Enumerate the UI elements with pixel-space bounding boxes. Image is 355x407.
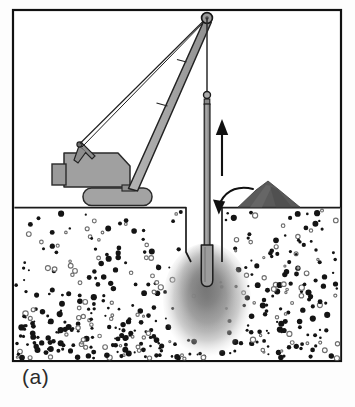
soil-grain-ring <box>76 326 80 330</box>
soil-grain-solid <box>279 307 282 310</box>
soil-grain-solid <box>270 255 273 258</box>
soil-grain-solid <box>114 327 116 329</box>
soil-grain-solid <box>158 342 160 344</box>
soil-grain-solid <box>311 304 315 308</box>
soil-grain-ring <box>175 213 178 216</box>
soil-grain-solid <box>177 247 181 251</box>
soil-grain-ring <box>253 302 256 305</box>
soil-grain-solid <box>55 250 59 254</box>
soil-grain-solid <box>251 343 254 346</box>
soil-grain-solid <box>131 228 137 234</box>
soil-grain-solid <box>267 345 270 348</box>
soil-grain-ring <box>111 314 114 317</box>
soil-grain-solid <box>102 294 105 297</box>
soil-grain-solid <box>262 298 267 303</box>
soil-grain-solid <box>33 341 37 345</box>
soil-grain-solid <box>254 263 259 268</box>
soil-grain-solid <box>287 345 291 349</box>
soil-grain-solid <box>246 329 249 332</box>
soil-grain-ring <box>147 356 151 360</box>
soil-grain-ring <box>119 345 121 347</box>
soil-grain-solid <box>289 282 293 286</box>
soil-grain-solid <box>19 334 23 338</box>
soil-grain-ring <box>77 306 81 310</box>
soil-grain-ring <box>319 341 322 344</box>
soil-grain-solid <box>332 251 335 254</box>
soil-grain-solid <box>174 354 180 360</box>
soil-grain-solid <box>306 333 309 336</box>
soil-grain-solid <box>171 219 175 223</box>
soil-grain-solid <box>314 278 318 282</box>
soil-grain-solid <box>129 334 132 337</box>
soil-grain-solid <box>146 283 150 287</box>
crane-cab-body <box>64 153 130 187</box>
soil-grain-solid <box>244 266 247 269</box>
soil-grain-solid <box>44 350 49 355</box>
soil-grain-solid <box>48 293 51 296</box>
soil-grain-solid <box>118 308 121 311</box>
soil-grain-solid <box>318 299 323 304</box>
soil-grain-ring <box>98 334 102 338</box>
soil-grain-solid <box>92 357 95 360</box>
soil-grain-ring <box>65 231 68 234</box>
soil-grain-solid <box>122 347 128 353</box>
soil-grain-solid <box>14 283 18 287</box>
soil-grain-ring <box>299 293 303 297</box>
soil-grain-solid <box>295 253 298 256</box>
soil-grain-solid <box>336 287 338 289</box>
soil-grain-ring <box>101 231 104 234</box>
soil-grain-ring <box>145 243 149 247</box>
soil-grain-ring <box>335 342 339 346</box>
soil-grain-solid <box>151 334 156 339</box>
soil-grain-ring <box>31 308 35 312</box>
soil-grain-solid <box>119 328 121 330</box>
soil-grain-solid <box>87 275 92 280</box>
soil-grain-solid <box>313 333 317 337</box>
soil-grain-solid <box>108 281 113 286</box>
soil-grain-solid <box>231 215 237 221</box>
soil-grain-solid <box>34 293 39 298</box>
soil-grain-ring <box>281 224 285 228</box>
soil-grain-solid <box>262 339 266 343</box>
soil-grain-solid <box>113 267 118 272</box>
soil-grain-ring <box>286 288 289 291</box>
soil-grain-ring <box>321 209 324 212</box>
soil-grain-solid <box>91 294 97 300</box>
soil-grain-ring <box>281 282 286 287</box>
soil-grain-ring <box>234 238 238 242</box>
soil-grain-solid <box>126 319 131 324</box>
crawler-track <box>83 188 152 206</box>
soil-grain-ring <box>68 263 73 268</box>
soil-grain-solid <box>266 330 268 332</box>
soil-grain-solid <box>119 354 123 358</box>
soil-grain-solid <box>267 353 269 355</box>
soil-grain-solid <box>302 243 306 247</box>
soil-grain-solid <box>249 211 253 215</box>
soil-grain-solid <box>250 273 253 276</box>
soil-grain-solid <box>268 251 272 255</box>
soil-grain-ring <box>284 313 287 316</box>
soil-grain-ring <box>249 240 253 244</box>
soil-grain-solid <box>26 343 29 346</box>
soil-grain-ring <box>136 313 139 316</box>
soil-grain-solid <box>329 353 334 358</box>
soil-grain-solid <box>295 211 301 217</box>
soil-grain-solid <box>321 284 326 289</box>
soil-grain-solid <box>273 237 279 243</box>
soil-grain-ring <box>92 219 96 223</box>
soil-grain-solid <box>309 355 313 359</box>
soil-grain-ring <box>296 234 300 238</box>
soil-grain-solid <box>55 331 57 333</box>
soil-grain-solid <box>75 355 80 360</box>
soil-grain-ring <box>85 227 89 231</box>
soil-grain-solid <box>36 336 39 339</box>
soil-grain-solid <box>297 319 303 325</box>
soil-grain-ring <box>297 267 299 269</box>
soil-grain-solid <box>247 232 251 236</box>
soil-grain-solid <box>28 222 33 227</box>
figure-caption: (a) <box>22 366 49 387</box>
soil-grain-solid <box>299 347 302 350</box>
soil-grain-ring <box>124 223 127 226</box>
soil-grain-solid <box>255 282 261 288</box>
soil-grain-solid <box>144 355 147 358</box>
